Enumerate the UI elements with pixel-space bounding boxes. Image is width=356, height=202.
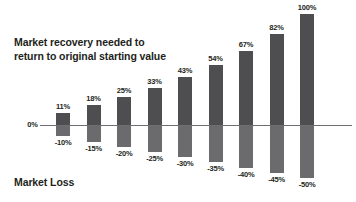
plot-area: 11%-10%18%-15%25%-20%33%-25%43%-30%54%-3…	[0, 0, 356, 202]
bar-value-label-loss: -25%	[140, 154, 170, 163]
bar-group: 67%-40%	[231, 0, 261, 202]
bar-group: 54%-35%	[201, 0, 231, 202]
bar-value-label-recovery: 54%	[201, 54, 231, 63]
bar-value-label-loss: -10%	[48, 138, 78, 147]
bar-value-label-loss: -20%	[109, 149, 139, 158]
bar-recovery	[239, 51, 253, 125]
bar-group: 18%-15%	[79, 0, 109, 202]
bar-recovery	[300, 14, 314, 125]
bar-value-label-recovery: 25%	[109, 86, 139, 95]
recovery-bar-chart: Market recovery needed to return to orig…	[0, 0, 356, 202]
bar-group: 11%-10%	[48, 0, 78, 202]
bar-loss	[300, 126, 314, 178]
bar-value-label-loss: -35%	[201, 164, 231, 173]
bar-recovery	[209, 65, 223, 125]
bar-loss	[148, 126, 162, 152]
bar-value-label-loss: -50%	[292, 180, 322, 189]
bar-value-label-recovery: 82%	[262, 23, 292, 32]
bar-recovery	[148, 88, 162, 125]
x-axis-caption: Market Loss	[14, 176, 74, 188]
bar-recovery	[56, 113, 70, 125]
bar-value-label-loss: -40%	[231, 170, 261, 179]
bar-value-label-recovery: 43%	[170, 66, 200, 75]
bar-value-label-recovery: 33%	[140, 77, 170, 86]
bar-loss	[239, 126, 253, 168]
bar-recovery	[87, 105, 101, 125]
bar-value-label-loss: -45%	[262, 175, 292, 184]
bar-group: 33%-25%	[140, 0, 170, 202]
bar-loss	[117, 126, 131, 147]
bar-loss	[209, 126, 223, 162]
bar-group: 25%-20%	[109, 0, 139, 202]
bar-group: 82%-45%	[262, 0, 292, 202]
bar-group: 43%-30%	[170, 0, 200, 202]
bar-loss	[56, 126, 70, 136]
bar-value-label-recovery: 18%	[79, 94, 109, 103]
bar-recovery	[117, 97, 131, 125]
bar-value-label-recovery: 100%	[292, 3, 322, 12]
bar-value-label-recovery: 11%	[48, 102, 78, 111]
bar-recovery	[270, 34, 284, 125]
bar-recovery	[178, 77, 192, 125]
bar-value-label-recovery: 67%	[231, 40, 261, 49]
bar-loss	[270, 126, 284, 173]
bar-value-label-loss: -15%	[79, 144, 109, 153]
bar-loss	[87, 126, 101, 142]
bar-group: 100%-50%	[292, 0, 322, 202]
bar-loss	[178, 126, 192, 157]
bar-value-label-loss: -30%	[170, 159, 200, 168]
